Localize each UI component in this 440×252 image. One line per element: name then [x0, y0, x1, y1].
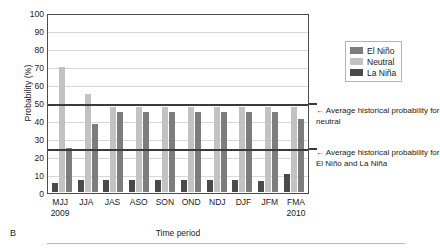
x-tick-year: 2010	[283, 208, 309, 219]
y-tick-label: 70	[20, 64, 44, 73]
legend-item: Neutral	[350, 56, 396, 67]
bottom-divider	[47, 243, 405, 244]
enso-annotation: ← Average historical probability for El …	[316, 148, 440, 170]
bar-el-nino	[272, 112, 278, 192]
bar-el-nino	[298, 119, 304, 192]
neutral-annotation: ← Average historical probability for neu…	[316, 106, 440, 128]
bar-la-nina	[129, 180, 135, 192]
y-axis-ticks: 1009080706050403020100	[20, 14, 44, 194]
bar-el-nino	[169, 112, 175, 192]
x-axis-label: Time period	[47, 228, 309, 238]
y-tick-label: 60	[20, 82, 44, 91]
bar-el-nino	[66, 148, 72, 193]
bar-el-nino	[221, 112, 227, 192]
average-historical-neutral-line	[48, 104, 308, 106]
x-tick-year: 2009	[47, 208, 73, 219]
bar-el-nino	[117, 112, 123, 192]
x-tick-label: NDJ	[204, 197, 230, 220]
x-tick-label: ASO	[126, 197, 152, 220]
panel-label: B	[10, 228, 16, 238]
bar-la-nina	[181, 180, 187, 192]
x-tick-label: JJA	[73, 197, 99, 220]
x-tick-label: MJJ2009	[47, 197, 73, 220]
y-tick-label: 10	[20, 172, 44, 181]
average-historical-elnino-lanina-line	[48, 149, 308, 151]
average-historical-elnino-lanina-line-extension	[309, 148, 317, 150]
x-tick-label: DJF	[230, 197, 256, 220]
legend-label: La Niña	[367, 68, 396, 78]
y-tick-label: 50	[20, 100, 44, 109]
x-tick-label: FMA2010	[283, 197, 309, 220]
legend-swatch	[350, 69, 363, 76]
average-historical-neutral-line-extension	[309, 103, 317, 105]
plot-area	[47, 14, 309, 194]
legend-swatch	[350, 58, 363, 65]
y-tick-label: 0	[20, 190, 44, 199]
x-tick-label: SON	[152, 197, 178, 220]
x-tick-label: JFM	[257, 197, 283, 220]
bar-el-nino	[195, 112, 201, 192]
x-tick-label: OND	[178, 197, 204, 220]
legend-swatch	[350, 47, 363, 54]
bar-el-nino	[246, 112, 252, 192]
legend-label: Neutral	[367, 57, 394, 67]
legend-item: La Niña	[350, 67, 396, 78]
x-axis-ticks: MJJ2009JJAJASASOSONONDNDJDJFJFMFMA2010	[47, 197, 309, 220]
legend-item: El Niño	[350, 45, 396, 56]
bar-la-nina	[103, 180, 109, 192]
bar-la-nina	[155, 180, 161, 192]
bar-el-nino	[92, 124, 98, 192]
chart-legend: El NiñoNeutralLa Niña	[345, 41, 402, 82]
bar-la-nina	[207, 180, 213, 192]
y-tick-label: 100	[20, 10, 44, 19]
bar-la-nina	[78, 180, 84, 192]
bar-el-nino	[143, 112, 149, 192]
legend-label: El Niño	[367, 46, 394, 56]
bar-la-nina	[258, 181, 264, 192]
y-tick-label: 80	[20, 46, 44, 55]
x-tick-label: JAS	[99, 197, 125, 220]
y-tick-label: 40	[20, 118, 44, 127]
bar-la-nina	[232, 180, 238, 192]
y-tick-label: 30	[20, 136, 44, 145]
bar-la-nina	[52, 183, 58, 192]
bar-neutral	[85, 94, 91, 192]
bar-neutral	[59, 67, 65, 192]
bar-la-nina	[284, 174, 290, 192]
y-tick-label: 20	[20, 154, 44, 163]
y-tick-label: 90	[20, 28, 44, 37]
